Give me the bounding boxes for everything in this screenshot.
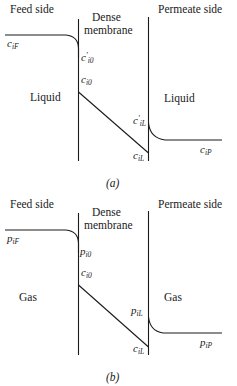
label-membrane-permeate-face: ciL	[133, 343, 144, 356]
feed-phase-label: Gas	[19, 292, 37, 304]
permeate-side-header: Permeate side	[158, 199, 222, 211]
label-permeate-interface: piL	[131, 305, 143, 318]
permeate-side-header: Permeate side	[158, 4, 222, 16]
feed-side-header: Feed side	[10, 4, 54, 16]
label-feed-bulk: ciF	[7, 38, 19, 51]
membrane-header-line1: Dense	[92, 12, 121, 24]
label-permeate-bulk: ciP	[200, 144, 212, 157]
permeate-profile	[149, 317, 223, 333]
label-membrane-feed-face: ci0	[81, 267, 92, 280]
feed-phase-label: Liquid	[30, 92, 61, 104]
label-permeate-interface: c′iL	[133, 115, 146, 128]
permeate-phase-label: Liquid	[164, 93, 195, 105]
feed-side-header: Feed side	[10, 199, 54, 211]
permeate-profile	[149, 123, 223, 140]
panel-b-gas: Feed side Dense membrane Permeate side G…	[0, 193, 237, 386]
panel-caption: (b)	[106, 371, 119, 383]
membrane-header-line1: Dense	[92, 207, 121, 219]
panel-a-liquid: Feed side Dense membrane Permeate side L…	[0, 0, 237, 193]
permeate-phase-label: Gas	[164, 292, 182, 304]
label-feed-bulk: piF	[7, 233, 19, 246]
membrane-header-line2: membrane	[84, 25, 133, 37]
label-feed-interface: c′i0	[81, 52, 93, 65]
label-permeate-bulk: piP	[200, 337, 212, 350]
label-membrane-permeate-face: ciL	[133, 150, 144, 163]
membrane-header-line2: membrane	[84, 220, 133, 232]
label-membrane-feed-face: ci0	[81, 74, 92, 87]
panel-caption: (a)	[106, 177, 119, 189]
label-feed-interface: pi0	[80, 246, 91, 259]
